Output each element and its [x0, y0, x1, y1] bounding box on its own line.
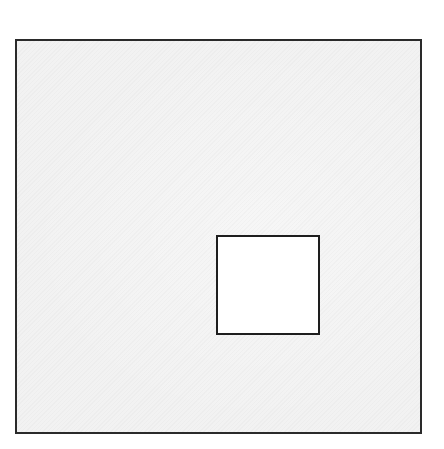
diagram-canvas: [0, 0, 444, 449]
inner-square: [216, 235, 320, 335]
